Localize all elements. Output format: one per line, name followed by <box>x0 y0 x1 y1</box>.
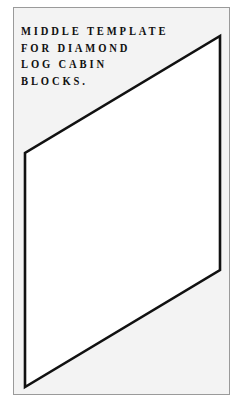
template-title: MIDDLE TEMPLATE FOR DIAMOND LOG CABIN BL… <box>21 23 168 90</box>
title-line-3: LOG CABIN <box>21 56 168 73</box>
title-line-4: BLOCKS. <box>21 73 168 90</box>
title-line-1: MIDDLE TEMPLATE <box>21 23 168 40</box>
title-line-2: FOR DIAMOND <box>21 40 168 57</box>
